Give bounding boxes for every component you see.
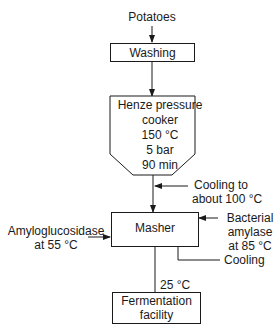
label-cooling-100: Cooling to about 100 °C [192, 178, 262, 206]
cooker-temp: 150 °C [105, 128, 215, 143]
bact-line3: at 85 °C [222, 239, 278, 253]
bact-line1: Bacterial [222, 211, 278, 225]
label-transfer-temp: 25 °C [160, 278, 190, 292]
node-masher-label: Masher [135, 221, 175, 235]
node-washing-label: Washing [129, 46, 175, 60]
label-masher-cooling: Cooling [224, 253, 265, 267]
label-amyloglucosidase: Amyloglucosidase at 55 °C [6, 224, 106, 252]
fermentation-line1: Fermentation [121, 294, 192, 308]
fermentation-line2: facility [140, 308, 173, 322]
node-masher: Masher [111, 212, 199, 247]
amylo-line2: at 55 °C [6, 238, 106, 252]
node-washing: Washing [110, 43, 195, 62]
cooker-title-line2: cooker [105, 113, 215, 128]
cooling-line2: about 100 °C [192, 192, 262, 206]
node-cooker: Henze pressure cooker 150 °C 5 bar 90 mi… [105, 98, 215, 173]
amylo-line1: Amyloglucosidase [6, 224, 106, 238]
label-bacterial-amylase: Bacterial amylase at 85 °C [222, 211, 278, 253]
input-potatoes: Potatoes [112, 10, 192, 24]
cooling-line1: Cooling to [192, 178, 262, 192]
cooker-time: 90 min [105, 158, 215, 173]
cooker-pressure: 5 bar [105, 143, 215, 158]
node-fermentation: Fermentation facility [112, 292, 201, 324]
bact-line2: amylase [222, 225, 278, 239]
cooker-title-line1: Henze pressure [105, 98, 215, 113]
